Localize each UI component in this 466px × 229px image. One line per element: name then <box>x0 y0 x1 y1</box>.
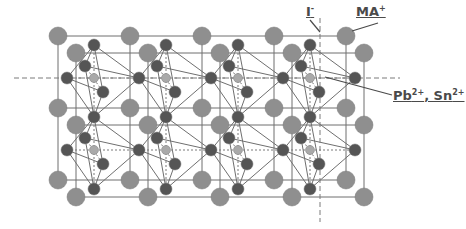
center-atom <box>162 74 171 83</box>
metal-atom <box>304 39 316 51</box>
iodide-atom <box>97 86 109 98</box>
center-atom <box>306 146 315 155</box>
label-sn-charge: 2+ <box>452 88 464 97</box>
metal-atom <box>61 144 73 156</box>
ma-cation-sphere <box>49 27 67 45</box>
iodide-atom <box>313 158 325 170</box>
octahedron-bond <box>67 78 94 117</box>
label-sn-text: , Sn <box>424 88 452 103</box>
ma-cation-sphere <box>49 171 67 189</box>
ma-cation-sphere <box>283 44 301 62</box>
metal-atom <box>88 111 100 123</box>
ma-cation-sphere <box>337 99 355 117</box>
ma-cation-sphere <box>139 44 157 62</box>
ma-pointer <box>352 23 378 31</box>
iodide-atom <box>151 132 163 144</box>
iodide-atom <box>241 86 253 98</box>
label-metal-cations: Pb2+, Sn2+ <box>393 88 465 103</box>
octahedron-bond <box>139 150 166 189</box>
ma-cation-sphere <box>265 171 283 189</box>
metal-atom <box>160 39 172 51</box>
label-ma-cation: MA+ <box>356 4 386 19</box>
metal-atom <box>205 144 217 156</box>
octahedron-bond <box>283 150 310 189</box>
ma-cation-sphere <box>211 116 229 134</box>
octahedron-bond <box>67 150 94 189</box>
label-iodide-charge: - <box>311 4 314 13</box>
ma-cation-sphere <box>121 171 139 189</box>
iodide-atom <box>241 158 253 170</box>
label-pb-charge: 2+ <box>412 88 424 97</box>
iodide-atom <box>79 132 91 144</box>
label-ma-charge: + <box>379 4 386 13</box>
ma-cation-sphere <box>283 188 301 206</box>
iodide-atom <box>223 60 235 72</box>
iodide-pointer <box>310 20 320 32</box>
metal-atom <box>160 183 172 195</box>
metal-atom <box>160 111 172 123</box>
label-pb-text: Pb <box>393 88 412 103</box>
center-atom <box>234 74 243 83</box>
ma-cation-sphere <box>193 27 211 45</box>
center-atom <box>162 146 171 155</box>
center-atom <box>234 146 243 155</box>
ma-cation-sphere <box>355 116 373 134</box>
metal-atom <box>304 183 316 195</box>
metal-atom <box>232 39 244 51</box>
metal-atom <box>133 144 145 156</box>
octahedron-bond <box>211 150 238 189</box>
iodide-atom <box>223 132 235 144</box>
ma-cation-sphere <box>67 44 85 62</box>
perovskite-lattice-diagram <box>0 0 466 229</box>
ma-cation-sphere <box>49 99 67 117</box>
metal-atom <box>205 72 217 84</box>
ma-cation-sphere <box>139 116 157 134</box>
ma-cation-sphere <box>337 27 355 45</box>
iodide-atom <box>97 158 109 170</box>
metal-atom <box>232 183 244 195</box>
center-atom <box>90 74 99 83</box>
iodide-atom <box>295 60 307 72</box>
metal-atom <box>349 72 361 84</box>
metal-atom <box>304 111 316 123</box>
ma-cation-sphere <box>265 99 283 117</box>
iodide-atom <box>79 60 91 72</box>
ma-cation-sphere <box>67 188 85 206</box>
iodide-atom <box>151 60 163 72</box>
ma-cation-sphere <box>337 171 355 189</box>
ma-cation-sphere <box>193 171 211 189</box>
bond-lines <box>58 36 364 197</box>
octahedron-bond <box>211 78 238 117</box>
iodide-atom <box>313 86 325 98</box>
ma-cation-sphere <box>211 188 229 206</box>
metal-atom <box>232 111 244 123</box>
ma-cation-sphere <box>283 116 301 134</box>
ma-cation-sphere <box>265 27 283 45</box>
metal-atom <box>133 72 145 84</box>
metal-atom <box>61 72 73 84</box>
metal-atom <box>349 144 361 156</box>
ma-cation-sphere <box>121 27 139 45</box>
iodide-atom <box>169 86 181 98</box>
ma-cation-sphere <box>355 44 373 62</box>
ma-cation-sphere <box>355 188 373 206</box>
metal-atom <box>88 39 100 51</box>
center-atom <box>306 74 315 83</box>
label-ma-text: MA <box>356 4 379 19</box>
ma-cation-sphere <box>121 99 139 117</box>
ma-cation-sphere <box>67 116 85 134</box>
iodide-atom <box>295 132 307 144</box>
octahedron-bond <box>283 78 310 117</box>
metal-atom <box>277 144 289 156</box>
ma-cation-sphere <box>193 99 211 117</box>
iodide-atom <box>169 158 181 170</box>
ma-cation-sphere <box>211 44 229 62</box>
ma-cation-sphere <box>139 188 157 206</box>
octahedron-bond <box>139 78 166 117</box>
center-atom <box>90 146 99 155</box>
metal-atom <box>88 183 100 195</box>
label-iodide: I- <box>306 4 314 19</box>
metal-atom <box>277 72 289 84</box>
